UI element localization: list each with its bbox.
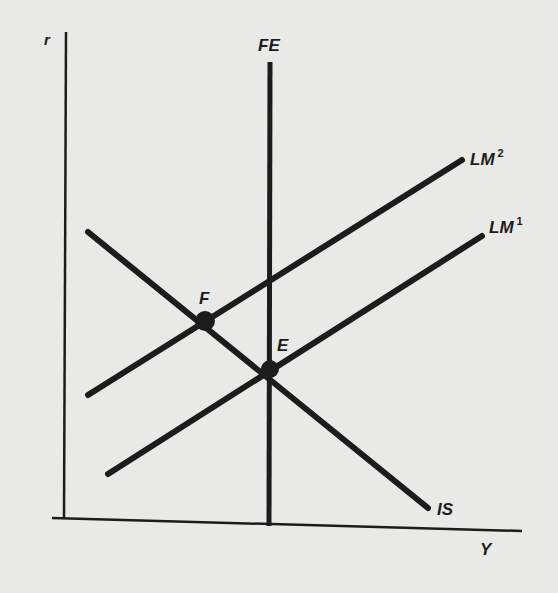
lm1-label-text: LM (489, 218, 514, 237)
is-lm-diagram (0, 0, 558, 593)
fe-line (269, 62, 270, 526)
is-label: IS (437, 501, 453, 518)
r-axis-label: r (44, 32, 50, 47)
point-f-dot (195, 311, 215, 331)
lm1-label: LM1 (489, 219, 523, 236)
y-axis-label: Y (480, 541, 491, 558)
lm2-label: LM2 (470, 151, 504, 168)
lm1-label-sup: 1 (517, 215, 523, 227)
fe-label: FE (258, 37, 280, 54)
y-axis (52, 518, 522, 531)
lm2-label-sup: 2 (498, 147, 504, 159)
point-e-dot (261, 360, 279, 378)
lm1-curve (108, 236, 482, 474)
point-e-label: E (277, 337, 288, 354)
r-axis (64, 32, 66, 519)
lm2-label-text: LM (470, 150, 495, 169)
point-f-label: F (199, 290, 209, 307)
is-curve (88, 232, 428, 508)
